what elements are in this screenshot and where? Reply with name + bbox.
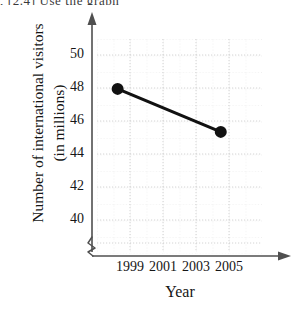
- y-axis-title: Number of international visitors (in mil…: [27, 3, 73, 243]
- x-tick-label-2001: 2001: [146, 259, 180, 275]
- x-tick-label-2003: 2003: [179, 259, 213, 275]
- y-axis-title-line1: Number of international visitors: [27, 3, 48, 243]
- chart-page: , [2.4] Use the graph: [0, 0, 296, 310]
- y-axis-title-line2: (in millions): [48, 3, 69, 243]
- x-tick-label-1999: 1999: [113, 259, 147, 275]
- data-point-1999: [112, 83, 124, 95]
- data-point-2004: [215, 126, 227, 138]
- x-tick-label-2005: 2005: [212, 259, 246, 275]
- y-axis: [88, 12, 97, 252]
- chart-gridlines: [97, 39, 262, 254]
- x-axis-title: Year: [120, 283, 240, 301]
